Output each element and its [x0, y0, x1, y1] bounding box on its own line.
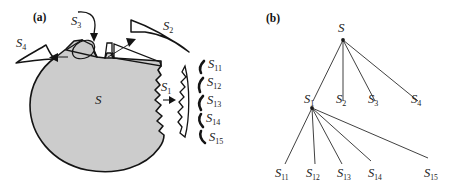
- panel-a-tag: (a): [33, 11, 47, 24]
- panel-b-tag: (b): [266, 12, 280, 25]
- label-blob-s: S: [95, 92, 102, 107]
- tree-label-s: S: [338, 20, 345, 35]
- node-dot-s: [341, 38, 345, 42]
- decomposition-figure: (a): [0, 0, 463, 191]
